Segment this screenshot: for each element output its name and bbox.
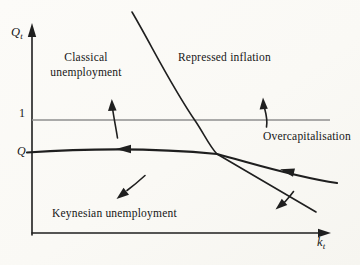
phase-diagram: Qt kt 1 Q Classical unemployment Repress…: [0, 0, 360, 265]
tick-label-one: 1: [19, 106, 25, 121]
y-axis-arrowhead-icon: [28, 23, 36, 37]
region-label-repressed-inflation: Repressed inflation: [178, 50, 271, 65]
repressed-up-arrowhead-icon: [260, 98, 268, 110]
y-axis-label: Qt: [11, 25, 23, 44]
x-axis-label: kt: [317, 235, 325, 254]
tick-label-q: Q: [17, 144, 26, 159]
keynesian-arrow-tail: [127, 176, 145, 191]
region-label-classical-unemployment: Classical unemployment: [36, 50, 136, 80]
steep-boundary-curve: [132, 12, 316, 212]
q-locus-left-arrowhead-icon: [116, 145, 131, 153]
repressed-up-arrow-tail: [264, 106, 267, 127]
classical-up-arrow-tail: [113, 108, 118, 138]
region-label-overcapitalisation: Overcapitalisation: [263, 129, 351, 144]
q-locus-line: [27, 150, 337, 184]
region-label-keynesian-unemployment: Keynesian unemployment: [52, 206, 177, 221]
classical-up-arrowhead-icon: [108, 99, 117, 111]
